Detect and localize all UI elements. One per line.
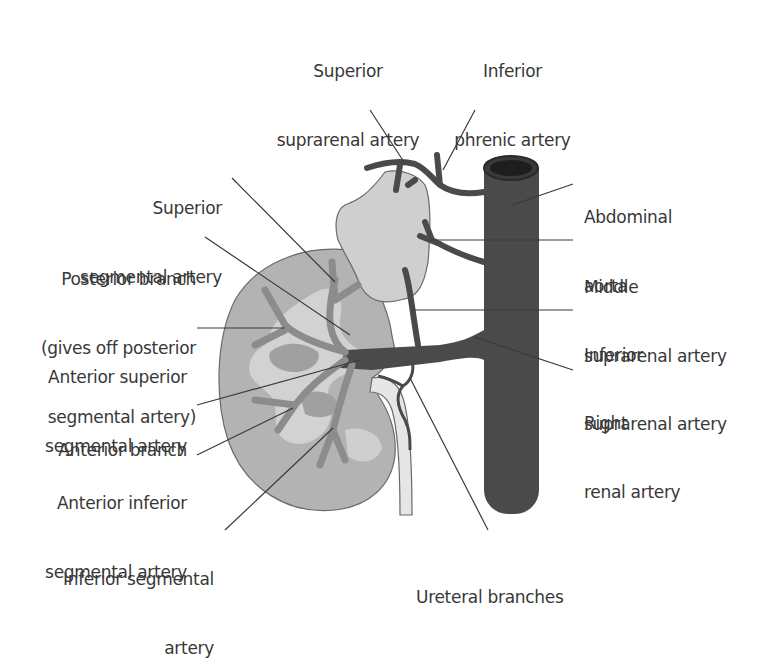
label-inferior-phrenic-artery: Inferior phrenic artery xyxy=(440,14,585,175)
label-superior-suprarenal-artery: Superior suprarenal artery xyxy=(268,14,428,175)
middle-suprarenal-artery-vessel xyxy=(420,222,484,262)
label-ureteral-branches: Ureteral branches xyxy=(416,540,596,632)
abdominal-aorta xyxy=(484,156,539,514)
label-right-renal-artery: Right renal artery xyxy=(584,366,754,527)
label-inferior-segmental-artery: Inferior segmental artery xyxy=(10,522,214,662)
